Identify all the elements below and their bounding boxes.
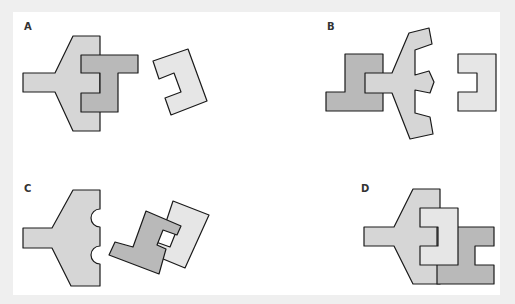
- c-piece: [458, 54, 496, 111]
- puzzle-figure: [0, 0, 515, 304]
- round-notched-arrow-piece: [23, 190, 100, 286]
- option-d[interactable]: [364, 189, 494, 284]
- c-piece: [153, 49, 207, 115]
- option-b[interactable]: [326, 28, 496, 139]
- option-a[interactable]: [23, 36, 207, 131]
- option-c[interactable]: [23, 190, 209, 286]
- arrow-piece: [364, 189, 440, 284]
- notched-arrow-piece: [365, 28, 434, 139]
- arrow-piece: [23, 36, 100, 131]
